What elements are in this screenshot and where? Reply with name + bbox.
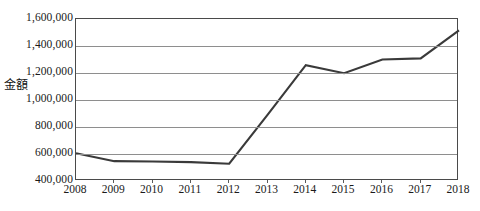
y-axis-tick-labels: 400,000600,000800,0001,000,0001,200,0001… (0, 0, 73, 211)
y-axis-tick-label: 1,200,000 (1, 66, 73, 78)
y-axis-tick-label: 1,400,000 (1, 39, 73, 51)
y-axis-tick-label: 800,000 (1, 120, 73, 132)
x-axis-tick-label: 2018 (435, 183, 480, 196)
y-axis-tick-label: 1,000,000 (1, 93, 73, 105)
gridline (76, 100, 457, 101)
x-axis-tick-labels: 2008200920102011201220132014201520162017… (75, 183, 458, 203)
y-axis-tick-label: 1,600,000 (1, 12, 73, 24)
gridline (76, 46, 457, 47)
plot-area (75, 18, 458, 180)
y-axis-tick-label: 600,000 (1, 147, 73, 159)
line-chart-figure: 金額 400,000600,000800,0001,000,0001,200,0… (0, 0, 480, 211)
gridline (76, 127, 457, 128)
gridline (76, 73, 457, 74)
series-polyline (76, 30, 459, 163)
gridline (76, 154, 457, 155)
